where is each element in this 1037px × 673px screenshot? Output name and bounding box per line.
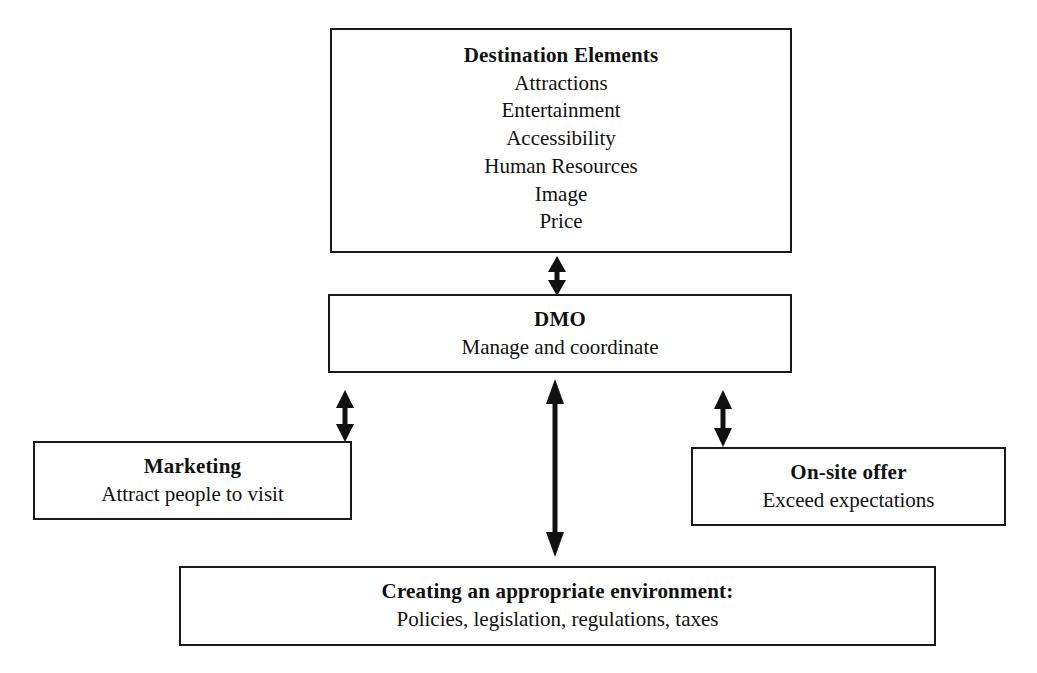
destination-element-image: Image [535, 181, 587, 209]
box-marketing[interactable]: Marketing Attract people to visit [33, 441, 352, 520]
box-onsite-offer[interactable]: On-site offer Exceed expectations [691, 447, 1006, 526]
box-dmo-heading: DMO [534, 306, 586, 334]
box-destination-elements[interactable]: Destination Elements Attractions Enterta… [330, 28, 792, 253]
box-dmo-subtitle: Manage and coordinate [461, 334, 658, 362]
box-dmo[interactable]: DMO Manage and coordinate [328, 294, 792, 373]
box-marketing-subtitle: Attract people to visit [101, 481, 284, 509]
destination-element-price: Price [539, 208, 582, 236]
diagram-canvas: Destination Elements Attractions Enterta… [0, 0, 1037, 673]
box-onsite-offer-subtitle: Exceed expectations [763, 487, 935, 515]
box-environment-subtitle: Policies, legislation, regulations, taxe… [397, 606, 719, 634]
double-arrow-dmo-onsite-icon [706, 389, 740, 448]
box-marketing-heading: Marketing [144, 453, 241, 481]
destination-element-accessibility: Accessibility [506, 125, 616, 153]
double-arrow-dmo-marketing-icon [328, 389, 362, 443]
destination-element-attractions: Attractions [514, 70, 607, 98]
box-environment-heading: Creating an appropriate environment: [382, 578, 734, 606]
double-arrow-destination-dmo-icon [540, 255, 574, 297]
destination-element-entertainment: Entertainment [502, 97, 621, 125]
box-environment[interactable]: Creating an appropriate environment: Pol… [179, 566, 936, 646]
box-onsite-offer-heading: On-site offer [790, 459, 906, 487]
double-arrow-dmo-environment-icon [538, 378, 572, 558]
box-destination-elements-heading: Destination Elements [464, 42, 659, 70]
destination-element-human-resources: Human Resources [484, 153, 637, 181]
